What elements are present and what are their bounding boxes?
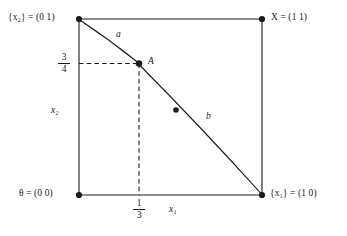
- y-tick-fraction: 3 4: [58, 53, 70, 75]
- diagram-canvas: [0, 0, 347, 236]
- y-axis-label: x₂: [51, 106, 59, 116]
- corner-label-top-right: X = (1 1): [271, 13, 307, 23]
- x-tick-denominator: 3: [133, 210, 145, 220]
- y-tick-numerator: 3: [58, 53, 70, 64]
- y-tick-denominator: 4: [58, 64, 70, 74]
- corner-label-top-left: {x₂} = (0 1): [8, 13, 55, 23]
- vertex-marker-theta: [76, 192, 82, 198]
- corner-label-bottom-left: θ = (0 0): [19, 189, 53, 199]
- point-marker-a: [136, 60, 143, 67]
- x-axis-label: x₁: [169, 205, 177, 215]
- x-tick-fraction: 1 3: [133, 199, 145, 221]
- edgeworth-box-figure: {x₂} = (0 1) X = (1 1) θ = (0 0) {x₁} = …: [0, 0, 347, 236]
- vertex-marker-X: [259, 16, 265, 22]
- vertex-marker-x2: [76, 16, 82, 22]
- vertex-marker-x1: [259, 192, 265, 198]
- curve-label-b: b: [206, 112, 211, 122]
- interior-point-marker: [173, 107, 179, 113]
- point-label-a: A: [148, 57, 154, 67]
- curve-segment-a: [81, 21, 139, 63]
- curve-label-a: a: [116, 30, 121, 40]
- x-tick-numerator: 1: [133, 199, 145, 210]
- corner-label-bottom-right: {x₁} = (1 0): [270, 189, 317, 199]
- curve-segment-b: [139, 65, 261, 194]
